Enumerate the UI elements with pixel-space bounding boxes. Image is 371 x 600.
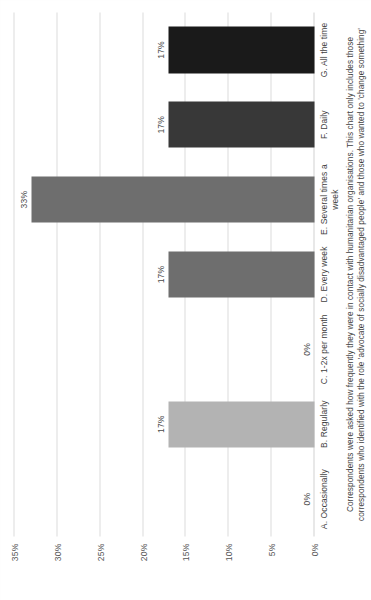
category-label: C. 1-2x per month <box>318 311 329 386</box>
bar-value-label: 17% <box>155 87 165 162</box>
category-label: A. Occasionally <box>318 461 329 536</box>
chart-caption: Correspondents were asked how frequently… <box>344 12 366 536</box>
scanned-page: 0%5%10%15%20%25%30%35% 0%17%0%17%33%17%1… <box>0 0 371 600</box>
rotated-chart-wrapper: 0%5%10%15%20%25%30%35% 0%17%0%17%33%17%1… <box>0 0 371 600</box>
y-axis-tick-label: 20% <box>138 543 148 561</box>
bar-slot: 33% <box>14 162 314 237</box>
bar[interactable] <box>168 401 314 447</box>
category-label: D. Every week <box>318 237 329 312</box>
y-axis-tick-label: 30% <box>52 543 62 561</box>
y-axis-tick-label: 10% <box>223 543 233 561</box>
plot-area: 0%5%10%15%20%25%30%35% 0%17%0%17%33%17%1… <box>14 12 314 536</box>
y-axis-tick-label: 25% <box>95 543 105 561</box>
bar[interactable] <box>168 101 314 147</box>
bar-chart: 0%5%10%15%20%25%30%35% 0%17%0%17%33%17%1… <box>0 0 371 600</box>
bar-slot: 0% <box>14 461 314 536</box>
bar[interactable] <box>168 26 314 72</box>
bar-value-label: 17% <box>155 386 165 461</box>
y-axis-tick-label: 5% <box>266 543 276 556</box>
bar[interactable] <box>31 176 314 222</box>
category-axis-labels: A. OccasionallyB. RegularlyC. 1-2x per m… <box>318 12 339 536</box>
bar-slot: 0% <box>14 311 314 386</box>
bar[interactable] <box>168 251 314 297</box>
y-axis-tick-label: 15% <box>180 543 190 561</box>
bar-value-label: 0% <box>301 461 311 536</box>
category-label: F. Daily <box>318 87 329 162</box>
bar-slot: 17% <box>14 386 314 461</box>
category-label: B. Regularly <box>318 386 329 461</box>
bar-value-label: 0% <box>301 311 311 386</box>
y-axis-tick-label: 35% <box>9 543 19 561</box>
bars-group: 0%17%0%17%33%17%17% <box>14 12 314 536</box>
bar-value-label: 33% <box>18 162 28 237</box>
bar-slot: 17% <box>14 12 314 87</box>
category-label: G. All the time <box>318 12 329 87</box>
bar-slot: 17% <box>14 87 314 162</box>
category-label: E. Several times a week <box>318 162 339 237</box>
bar-slot: 17% <box>14 237 314 312</box>
bar-value-label: 17% <box>155 12 165 87</box>
y-axis-tick-label: 0% <box>309 543 319 556</box>
bar-value-label: 17% <box>155 237 165 312</box>
